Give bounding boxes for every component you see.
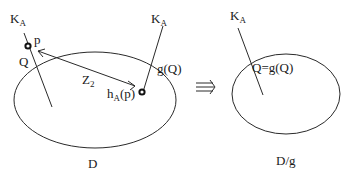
gq-label: g(Q)	[157, 61, 182, 76]
region-d-label: D	[88, 156, 97, 171]
fixed-point-label: Q=g(Q)	[252, 60, 293, 75]
point-p-label: p	[34, 32, 41, 47]
ka-label-left: KA	[10, 11, 26, 28]
quotient-diagram: KA p Q Z2 hA(p) KA g(Q) D KA Q=g(Q) D/g	[0, 0, 349, 174]
z2-label: Z2	[82, 72, 94, 89]
ka-line-middle	[143, 26, 163, 92]
point-p-marker	[25, 43, 30, 48]
point-ha-marker	[139, 89, 144, 94]
region-d-ellipse	[14, 52, 176, 148]
ha-p-label: hA(p)	[107, 86, 135, 103]
ka-label-middle: KA	[151, 11, 167, 28]
implies-arrow-icon	[196, 80, 215, 94]
point-q-label: Q	[19, 54, 29, 69]
ka-label-right: KA	[230, 8, 246, 25]
region-dg-label: D/g	[276, 153, 296, 168]
